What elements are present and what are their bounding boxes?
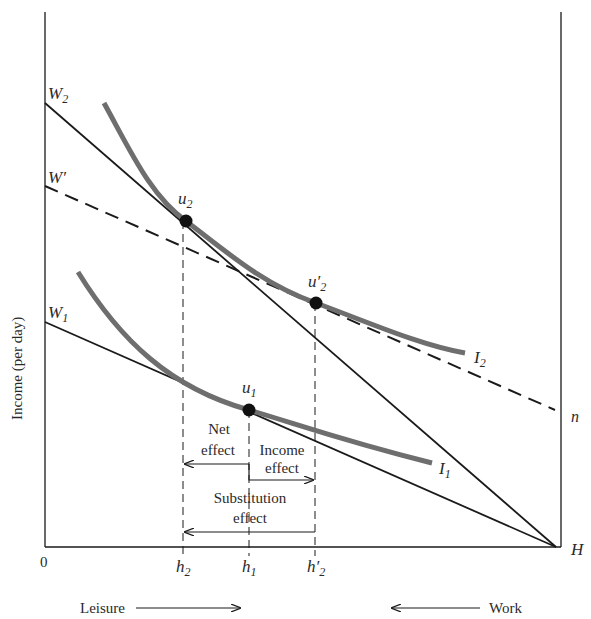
point-u1: [243, 404, 256, 417]
label-w2: W2: [48, 84, 68, 106]
point-u2-prime: [310, 297, 323, 310]
net-effect-label-line2: effect: [201, 442, 236, 458]
label-i2: I2: [473, 348, 486, 370]
indifference-curve-i1: [78, 272, 432, 463]
y-axis-label: Income (per day): [9, 317, 26, 420]
tick-h1: h1: [242, 557, 257, 579]
substitution-effect-label-line1: Substitution: [214, 490, 287, 506]
income-effect-label-line2: effect: [265, 460, 300, 476]
label-u1: u1: [242, 378, 257, 400]
income-effect-label-line1: Income: [260, 442, 305, 458]
tick-h2-prime: h′2: [307, 557, 325, 579]
label-h-end: H: [570, 540, 585, 559]
label-u2: u2: [178, 189, 193, 211]
leisure-label: Leisure: [80, 600, 125, 616]
label-i1: I1: [438, 459, 451, 481]
tick-h2: h2: [176, 557, 191, 579]
point-u2: [180, 215, 193, 228]
net-effect-label-line1: Net: [208, 421, 230, 437]
label-n: n: [571, 408, 579, 425]
label-origin: 0: [40, 554, 48, 570]
label-u2-prime: u′2: [308, 272, 326, 294]
indifference-curve-i2: [104, 103, 465, 353]
substitution-effect-label-line2: effect: [233, 510, 268, 526]
label-w-prime: W′: [48, 168, 66, 187]
labor-leisure-diagram: Income (per day) W2 W′ W1 I2 I1 n H u2 u…: [0, 0, 591, 619]
label-w1: W1: [48, 303, 68, 325]
work-label: Work: [489, 600, 522, 616]
